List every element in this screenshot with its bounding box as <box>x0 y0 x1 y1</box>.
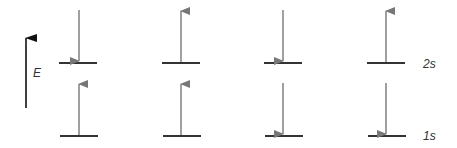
configuration-4 <box>367 11 406 136</box>
level-label-1s: 1s <box>423 129 436 143</box>
level-label-2s: 2s <box>423 57 436 71</box>
energy-level-diagram <box>0 0 457 148</box>
configuration-3 <box>264 10 303 136</box>
configuration-1 <box>59 10 98 136</box>
energy-axis-label: E <box>33 66 41 80</box>
configuration-2 <box>162 11 201 136</box>
